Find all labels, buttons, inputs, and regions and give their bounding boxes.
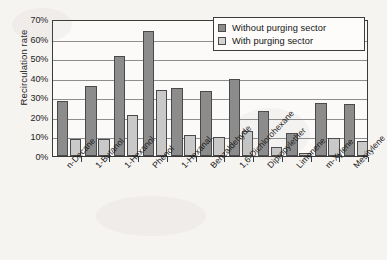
- y-axis-tick-label: 20%: [31, 114, 48, 123]
- y-axis-tick-label: 40%: [31, 75, 48, 84]
- chart-legend: Without purging sectorWith purging secto…: [213, 17, 365, 51]
- legend-swatch-icon: [218, 24, 226, 32]
- legend-item: Without purging sector: [218, 21, 358, 34]
- y-axis-tick-label: 50%: [31, 55, 48, 64]
- legend-swatch-icon: [218, 37, 226, 45]
- y-axis-tick-label: 30%: [31, 94, 48, 103]
- y-axis-tick-label: 0%: [35, 153, 48, 162]
- y-axis-tick-label: 10%: [31, 133, 48, 142]
- bar-group: [110, 21, 139, 156]
- legend-label: With purging sector: [232, 36, 313, 46]
- bar-group: [139, 21, 168, 156]
- legend-label: Without purging sector: [232, 23, 326, 33]
- bar-group: [53, 21, 82, 156]
- bar: [171, 88, 183, 157]
- legend-item: With purging sector: [218, 34, 358, 47]
- bar-group: [82, 21, 111, 156]
- bar: [57, 101, 69, 156]
- y-axis-tick-labels: 70%60%50%40%30%20%10%0%: [20, 14, 48, 157]
- bar-group: [168, 21, 197, 156]
- y-axis-tick-label: 70%: [31, 16, 48, 25]
- y-axis-tick-label: 60%: [31, 36, 48, 45]
